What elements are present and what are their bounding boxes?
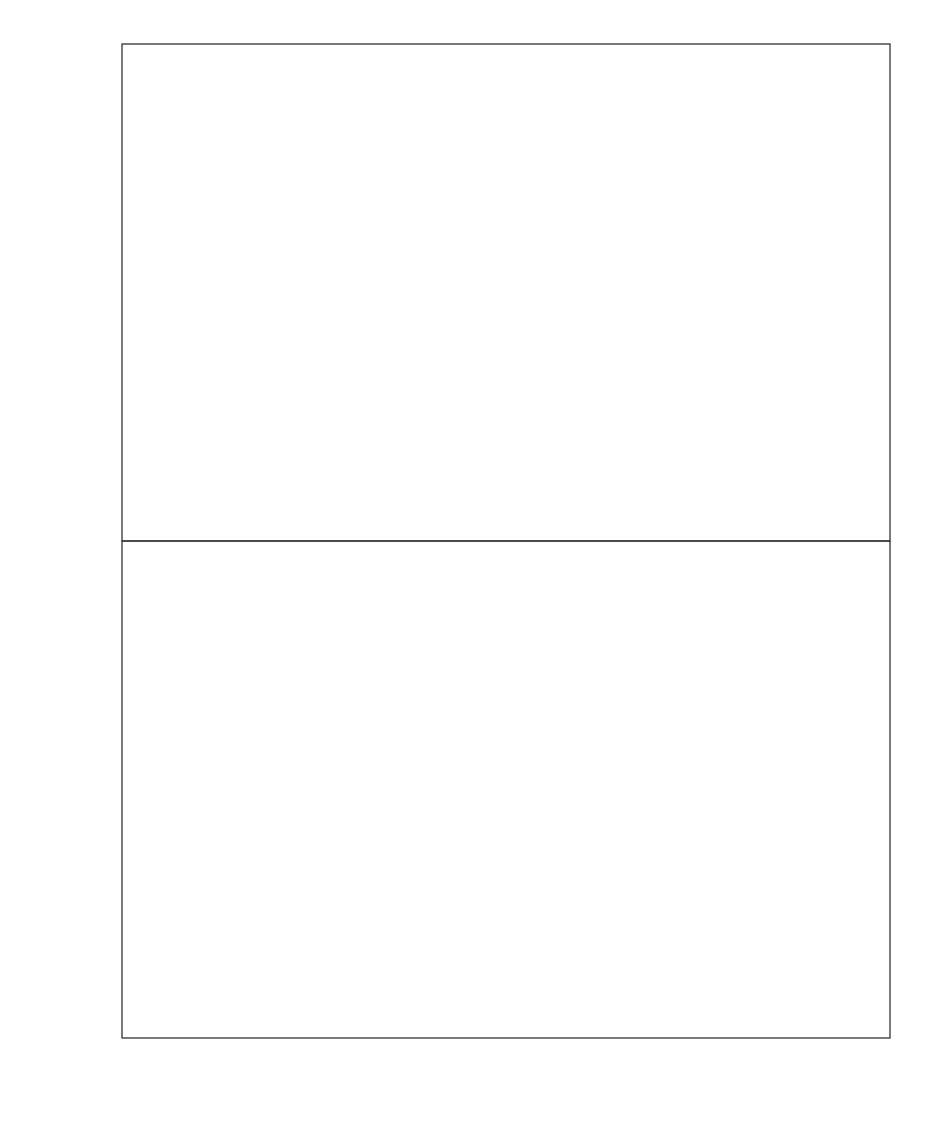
figure [0, 0, 925, 1131]
co2-plot-frame [122, 44, 890, 541]
temperature-plot-frame [122, 541, 890, 1038]
figure-caption-fragment [0, 1116, 925, 1131]
temperature-panel [122, 541, 890, 1038]
co2-panel [54, 44, 890, 541]
